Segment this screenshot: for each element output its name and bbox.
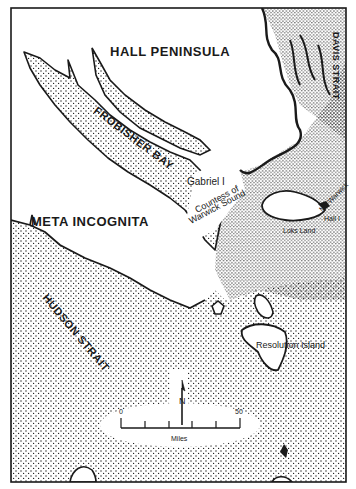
label-loks-land: Loks Land [283, 227, 315, 234]
north-label: N [179, 396, 186, 406]
label-hall-island: Hall I [324, 215, 340, 222]
label-resolution-island: Resolution Island [256, 340, 325, 350]
label-davis-strait: DAVIS STRAIT [331, 32, 341, 100]
map-canvas: HALL PENINSULA DAVIS STRAIT FROBISHER BA… [0, 0, 356, 489]
scale-start-label: 0 [119, 408, 123, 415]
label-gabriel-island: Gabriel I [187, 176, 225, 187]
label-hall-peninsula: HALL PENINSULA [110, 44, 230, 59]
scale-end-label: 50 [235, 408, 243, 415]
label-meta-incognita: META INCOGNITA [31, 214, 149, 229]
scale-unit-label: Miles [171, 435, 188, 442]
